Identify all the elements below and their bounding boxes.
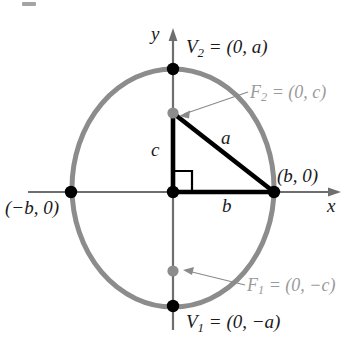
leg-b-label: b	[222, 196, 232, 215]
leg-c-label: c	[151, 140, 159, 159]
vertex-top-dot	[167, 63, 179, 75]
vertex-top-label: V2 = (0, a)	[186, 37, 268, 60]
focus-top-label-rest: = (0, c)	[267, 82, 326, 102]
leader-arrow-f1	[183, 267, 194, 275]
focus-top-label: F2 = (0, c)	[250, 83, 326, 104]
figure-canvas: y x V2 = (0, a) V1 = (0, −a) F2 = (0, c)…	[0, 0, 359, 339]
covertex-left-dot	[65, 186, 77, 198]
x-axis-label: x	[327, 196, 335, 215]
y-axis-arrowhead	[169, 28, 178, 41]
vertex-top-label-rest: = (0, a)	[204, 36, 267, 57]
covertex-left-label: (−b, 0)	[5, 198, 59, 217]
vertex-bottom-dot	[167, 300, 179, 312]
focus-bottom-label-letter: F	[247, 275, 258, 295]
hypotenuse-a-label: a	[221, 128, 231, 147]
covertex-right-label: (b, 0)	[277, 166, 318, 185]
focus-top-dot	[167, 107, 178, 118]
focus-top-label-letter: F	[250, 82, 261, 102]
focus-bottom-dot	[167, 265, 178, 276]
vertex-bottom-label-rest: = (0, −a)	[204, 311, 280, 332]
origin-dot	[167, 186, 179, 198]
focus-bottom-label: F1 = (0, −c)	[247, 276, 335, 297]
focus-bottom-label-rest: = (0, −c)	[264, 275, 335, 295]
vertex-bottom-label: V1 = (0, −a)	[186, 312, 280, 335]
covertex-right-dot	[268, 186, 280, 198]
vertex-bottom-label-letter: V	[186, 311, 198, 332]
leader-line-f2	[184, 92, 248, 114]
vertex-top-label-letter: V	[186, 36, 198, 57]
y-axis-label: y	[151, 24, 159, 43]
